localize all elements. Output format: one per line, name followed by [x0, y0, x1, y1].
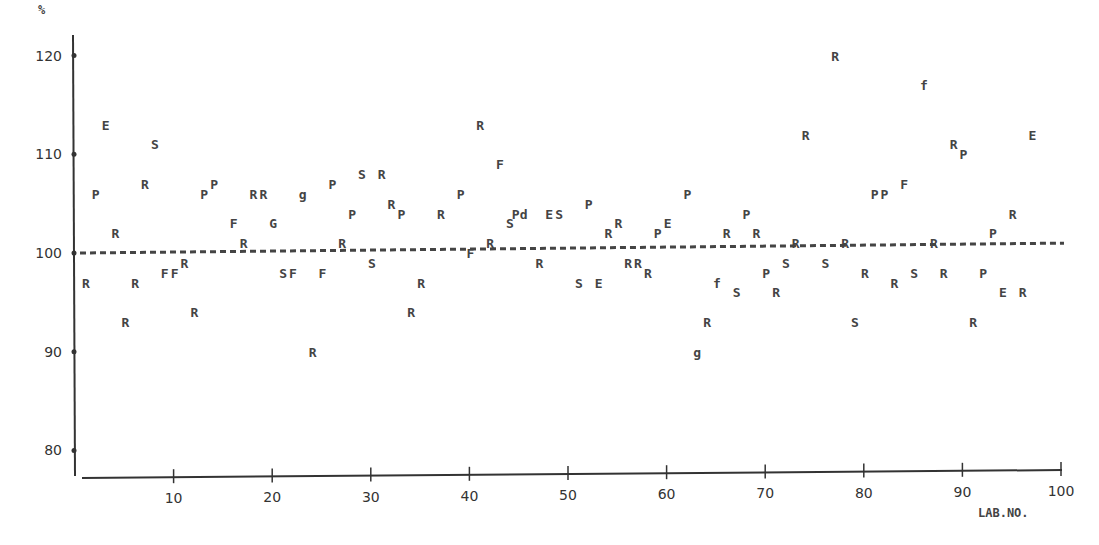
x-tick-label: 100 — [1048, 483, 1075, 499]
y-tick-label: 110 — [35, 146, 62, 162]
data-point-marker: P — [881, 187, 889, 202]
data-point-marker: g — [299, 187, 307, 202]
data-point-marker: f — [920, 78, 928, 93]
reference-line — [80, 243, 1064, 253]
data-point-marker: P — [328, 177, 336, 192]
data-point-marker: g — [693, 345, 701, 360]
y-tick-mark — [72, 152, 77, 157]
x-tick-label: 30 — [362, 489, 380, 505]
data-point-marker: R — [614, 216, 622, 231]
data-point-marker: R — [309, 345, 317, 360]
data-point-marker: F — [161, 266, 169, 281]
data-point-marker: Pd — [512, 207, 528, 222]
data-point-marker: S — [555, 207, 563, 222]
x-tick-label: 20 — [263, 489, 281, 505]
data-point-marker: F — [171, 266, 179, 281]
data-point-marker: S — [368, 256, 376, 271]
data-point-marker: P — [989, 226, 997, 241]
x-tick-label: 40 — [460, 488, 478, 504]
data-point-marker: S — [358, 167, 366, 182]
data-point-marker: R — [112, 226, 120, 241]
x-axis: 102030405060708090100 — [82, 462, 1074, 506]
data-point-marker: R — [752, 226, 760, 241]
y-tick-mark — [72, 349, 77, 354]
data-point-marker: R — [841, 236, 849, 251]
data-point-marker: R — [190, 305, 198, 320]
data-point-marker: R — [407, 305, 415, 320]
data-point-marker: R — [605, 226, 613, 241]
interlab-scatter-chart: 8090100110120 102030405060708090100 % LA… — [0, 0, 1099, 545]
data-point-marker: F — [900, 177, 908, 192]
data-point-marker: P — [979, 266, 987, 281]
y-tick-label: 100 — [35, 245, 62, 261]
x-tick-label: 90 — [953, 484, 971, 500]
data-point-marker: R — [644, 266, 652, 281]
data-point-marker: P — [762, 266, 770, 281]
data-point-marker: S — [851, 315, 859, 330]
data-point-marker: P — [348, 207, 356, 222]
data-point-marker: R — [486, 236, 494, 251]
data-point-marker: R — [1009, 207, 1017, 222]
data-point-marker: R — [624, 256, 632, 271]
x-axis-title: LAB.NO. — [978, 506, 1029, 520]
data-point-marker: S — [279, 266, 287, 281]
data-point-marker: R — [969, 315, 977, 330]
data-point-marker: F — [230, 216, 238, 231]
data-point-marker: R — [890, 276, 898, 291]
x-tick-label: 70 — [756, 485, 774, 501]
data-point-marker: E — [999, 285, 1007, 300]
data-point-marker: P — [871, 187, 879, 202]
data-point-marker: R — [181, 256, 189, 271]
data-point-marker: R — [476, 118, 484, 133]
data-point-marker: R — [940, 266, 948, 281]
data-point-marker: P — [585, 197, 593, 212]
x-tick-label: 10 — [165, 490, 183, 506]
data-point-marker: R — [861, 266, 869, 281]
data-point-marker: P — [743, 207, 751, 222]
data-point-marker: S — [733, 285, 741, 300]
data-point-marker: R — [802, 128, 810, 143]
data-point-marker: S — [782, 256, 790, 271]
data-point-marker: E — [545, 207, 553, 222]
data-point-marker: S — [575, 276, 583, 291]
x-tick-label: 60 — [658, 486, 676, 502]
data-point-marker: P — [92, 187, 100, 202]
x-tick-label: 50 — [559, 487, 577, 503]
data-point-marker: P — [457, 187, 465, 202]
data-point-marker: F — [319, 266, 327, 281]
data-point-marker: R — [131, 276, 139, 291]
data-point-marker: R — [950, 137, 958, 152]
data-point-marker: R — [831, 49, 839, 64]
data-point-marker: R — [930, 236, 938, 251]
data-point-marker: E — [595, 276, 603, 291]
data-point-marker: R — [240, 236, 248, 251]
data-point-marker: R — [437, 207, 445, 222]
data-point-marker: R — [723, 226, 731, 241]
data-point-marker: P — [654, 226, 662, 241]
data-point-marker: R — [82, 276, 90, 291]
data-point-marker: R — [792, 236, 800, 251]
y-tick-label: 120 — [35, 48, 62, 64]
y-unit-label: % — [38, 3, 46, 17]
y-tick-mark — [72, 53, 77, 58]
data-point-marker: R — [417, 276, 425, 291]
x-tick-label: 80 — [855, 485, 873, 501]
data-point-marker: R — [141, 177, 149, 192]
data-points: RPERRRRSFFRRPPFRRRGSFgRFPRPSSRRPRRRPFRRF… — [82, 49, 1036, 360]
data-point-marker: R — [378, 167, 386, 182]
data-point-marker: P — [200, 187, 208, 202]
data-point-marker: E — [1029, 128, 1037, 143]
data-point-marker: R — [536, 256, 544, 271]
y-tick-label: 80 — [44, 442, 62, 458]
data-point-marker: F — [496, 157, 504, 172]
data-point-marker: E — [102, 118, 110, 133]
data-point-marker: E — [664, 216, 672, 231]
data-point-marker: R — [121, 315, 129, 330]
data-point-marker: F — [466, 246, 474, 261]
data-point-marker: P — [210, 177, 218, 192]
data-point-marker: R — [250, 187, 258, 202]
data-point-marker: F — [289, 266, 297, 281]
data-point-marker: R — [772, 285, 780, 300]
y-axis: 8090100110120 — [35, 35, 76, 476]
data-point-marker: R — [1019, 285, 1027, 300]
